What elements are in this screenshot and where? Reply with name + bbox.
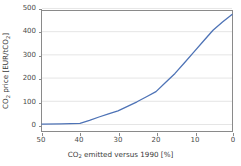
ytick-mark-0	[39, 126, 42, 127]
xtick-label-10: 10	[185, 137, 205, 144]
y-axis-label-wrapper: CO2 price [EUR/tCO2]	[2, 10, 12, 132]
ytick-mark-100	[39, 103, 42, 104]
ytick-label-400: 400	[20, 28, 36, 35]
series-co2-price-line	[42, 14, 232, 124]
ytick-label-0: 0	[20, 122, 36, 129]
ytick-label-300: 300	[20, 52, 36, 59]
data-series-layer	[42, 11, 232, 131]
xtick-label-30: 30	[108, 137, 128, 144]
y-axis-label-text: CO2 price [EUR/tCO2]	[1, 33, 10, 109]
xtick-label-0: 0	[223, 137, 241, 144]
y-axis-label: CO2 price [EUR/tCO2]	[1, 33, 12, 109]
ytick-mark-400	[39, 32, 42, 33]
xtick-label-40: 40	[69, 137, 89, 144]
x-axis-label-text: CO2 emitted versus 1990 [%]	[68, 150, 174, 159]
ytick-mark-300	[39, 56, 42, 57]
ytick-mark-500	[39, 9, 42, 10]
ytick-label-100: 100	[20, 99, 36, 106]
ytick-mark-200	[39, 79, 42, 80]
x-axis-label: CO2 emitted versus 1990 [%]	[0, 150, 241, 161]
xtick-label-20: 20	[146, 137, 166, 144]
xtick-label-50: 50	[31, 137, 51, 144]
chart-figure: 0 100 200 300 400 500 50 40 30 20 10 0 C…	[0, 0, 241, 166]
ytick-label-500: 500	[20, 5, 36, 12]
plot-area	[41, 10, 233, 132]
ytick-label-200: 200	[20, 75, 36, 82]
